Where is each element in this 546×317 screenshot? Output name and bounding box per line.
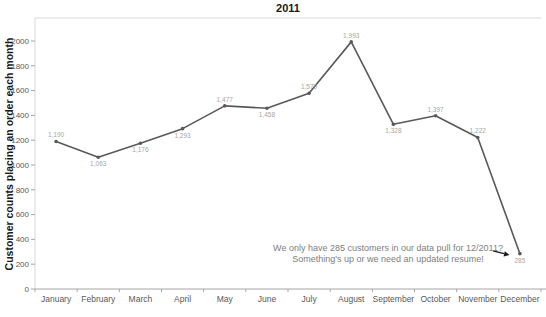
x-tick-label: March: [129, 294, 153, 304]
data-value-label: 1,222: [470, 127, 487, 134]
x-tick-label: October: [420, 294, 450, 304]
annotation-text: We only have 285 customers in our data p…: [268, 243, 508, 264]
data-point: [392, 123, 396, 127]
data-value-label: 1,190: [48, 131, 65, 138]
y-tick-label: 800: [16, 186, 30, 195]
y-tick-label: 1000: [11, 161, 29, 170]
x-tick-label: July: [302, 294, 318, 304]
data-point: [96, 155, 100, 159]
data-value-label: 1,063: [90, 160, 107, 167]
data-point: [476, 136, 480, 140]
y-tick-label: 200: [16, 260, 30, 269]
x-tick-label: August: [338, 294, 365, 304]
data-value-label: 1,477: [217, 96, 234, 103]
annotation-line-2: Something's up or we need an updated res…: [268, 254, 508, 265]
data-point: [307, 91, 311, 95]
x-tick-label: September: [373, 294, 415, 304]
y-tick-label: 600: [16, 210, 30, 219]
data-value-label: 1,397: [427, 106, 444, 113]
y-tick-label: 1800: [11, 62, 29, 71]
data-value-label: 1,458: [259, 111, 276, 118]
data-point: [223, 104, 227, 108]
data-value-label: 1,293: [174, 132, 191, 139]
y-tick-label: 1600: [11, 86, 29, 95]
chart-container: 2011 Customer counts placing an order ea…: [0, 0, 546, 317]
line-chart: 0200400600800100012001400160018002000Jan…: [0, 0, 546, 317]
data-value-label: 1,328: [385, 127, 402, 134]
data-point: [54, 140, 58, 144]
data-point: [349, 40, 353, 44]
x-tick-label: February: [81, 294, 116, 304]
data-value-label: 1,579: [301, 83, 318, 90]
x-tick-label: April: [174, 294, 191, 304]
trend-line: [56, 42, 520, 254]
x-tick-label: May: [217, 294, 234, 304]
y-tick-label: 0: [25, 285, 30, 294]
x-tick-label: January: [41, 294, 72, 304]
y-tick-label: 1200: [11, 136, 29, 145]
y-tick-label: 400: [16, 235, 30, 244]
data-point: [434, 114, 438, 118]
x-tick-label: December: [500, 294, 539, 304]
data-point: [139, 141, 143, 145]
y-tick-label: 2000: [11, 37, 29, 46]
data-value-label: 1,993: [343, 32, 360, 39]
x-tick-label: June: [258, 294, 277, 304]
data-point: [265, 106, 269, 110]
annotation-line-1: We only have 285 customers in our data p…: [268, 243, 508, 254]
y-tick-label: 1400: [11, 111, 29, 120]
data-point: [518, 252, 522, 256]
data-point: [181, 127, 185, 131]
data-value-label: 1,176: [132, 146, 149, 153]
data-value-label: 285: [514, 257, 525, 264]
x-tick-label: November: [458, 294, 497, 304]
